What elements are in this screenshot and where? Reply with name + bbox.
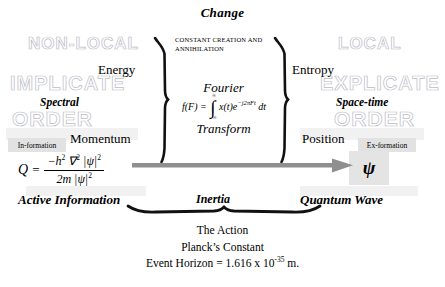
watermark-non-local: NON-LOCAL (28, 34, 139, 54)
brace-bottom-icon (126, 203, 322, 217)
label-position: Position (302, 131, 345, 147)
caption-line-plancks-constant: Planck’s Constant (0, 239, 445, 256)
fourier-transform-equation: f(F) = ∞ ∫ −∞ x(t)e−j2πFt dt (168, 98, 280, 117)
equation-lhs: f(F) (182, 101, 198, 112)
label-space-time: Space-time (336, 96, 388, 108)
q-denominator: 2m |ψ|2 (53, 172, 94, 187)
diagram-title: Change (0, 5, 445, 21)
integral-symbol-group: ∞ ∫ −∞ (210, 98, 215, 117)
event-horizon-prefix: Event Horizon = 1.616 x 10 (146, 257, 275, 269)
equation-exponent: −j2πFt (237, 99, 255, 106)
label-momentum: Momentum (70, 131, 131, 147)
label-active-information: Active Information (18, 192, 120, 208)
event-horizon-suffix: m. (284, 257, 299, 269)
bottom-caption: The Action Planck’s Constant Event Horiz… (0, 222, 445, 272)
label-spectral: Spectral (40, 96, 79, 108)
label-in-formation: In-formation (8, 139, 66, 153)
integral-lower-limit: −∞ (210, 115, 216, 120)
fraction-bar (44, 170, 103, 171)
equation-equals: = (200, 101, 207, 112)
diagram-canvas: Change NON-LOCAL IMPLICATE ORDER LOCAL E… (0, 0, 445, 287)
q-nabla-exp: 2 (76, 153, 80, 162)
q-fraction: −h2 ∇2 |ψ|2 2m |ψ|2 (44, 154, 103, 187)
watermark-explicate: EXPLICATE (320, 72, 440, 95)
label-constant-creation-annihilation: CONSTANT CREATION AND ANNIHILATION (175, 35, 270, 54)
q-num-h: −h (47, 154, 61, 168)
q-num-psi-exp: 2 (97, 153, 101, 162)
q-numerator: −h2 ∇2 |ψ|2 (44, 154, 103, 169)
horizontal-arrow-icon (132, 158, 354, 174)
q-symbol: Q (18, 162, 28, 178)
watermark-order-right: ORDER (334, 107, 415, 131)
label-transform: Transform (176, 121, 271, 137)
watermark-local: LOCAL (338, 34, 402, 54)
label-entropy: Entropy (292, 62, 334, 78)
caption-line-event-horizon: Event Horizon = 1.616 x 10-35 m. (0, 255, 445, 272)
q-equals: = (32, 162, 39, 178)
integral-upper-limit: ∞ (212, 93, 216, 98)
q-num-h-exp: 2 (62, 153, 66, 162)
q-den-psi-exp: 2 (88, 171, 92, 180)
watermark-order-left: ORDER (12, 107, 93, 131)
equation-integrand: x(t)e (219, 101, 237, 112)
event-horizon-exponent: -35 (274, 256, 284, 265)
q-num-psi: |ψ| (83, 154, 97, 168)
equation-differential: dt (258, 101, 266, 112)
label-psi-symbol: ψ (349, 151, 389, 185)
q-den-psi: |ψ| (74, 172, 88, 186)
q-den-mass: 2m (56, 172, 71, 186)
label-energy: Energy (98, 62, 135, 78)
quantum-potential-equation: Q = −h2 ∇2 |ψ|2 2m |ψ|2 (18, 154, 104, 187)
caption-line-the-action: The Action (0, 222, 445, 239)
label-fourier: Fourier (176, 80, 271, 96)
